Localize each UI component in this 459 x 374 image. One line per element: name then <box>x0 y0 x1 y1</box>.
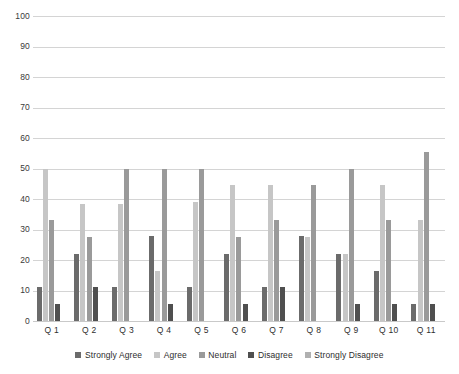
x-tick-label: Q 11 <box>408 325 445 339</box>
bar <box>49 220 54 321</box>
bar-group <box>70 16 107 321</box>
x-tick-label: Q 10 <box>370 325 407 339</box>
x-tick-label: Q 8 <box>295 325 332 339</box>
bar <box>168 304 173 321</box>
bar <box>112 287 117 321</box>
bar <box>93 287 98 321</box>
bar-group <box>183 16 220 321</box>
legend-swatch-icon <box>75 352 81 358</box>
bar <box>349 169 354 322</box>
bar <box>311 185 316 321</box>
bar-group <box>33 16 70 321</box>
bar <box>87 237 92 321</box>
bar <box>430 304 435 321</box>
bar <box>274 220 279 321</box>
y-tick-label-50: 50 <box>0 164 30 173</box>
legend-item[interactable]: Strongly Agree <box>75 350 142 360</box>
legend-item[interactable]: Agree <box>154 350 187 360</box>
bar <box>355 304 360 321</box>
legend-item[interactable]: Strongly Disagree <box>305 350 384 360</box>
x-tick-label: Q 6 <box>220 325 257 339</box>
bar-group <box>145 16 182 321</box>
bar <box>187 287 192 321</box>
bar <box>74 254 79 321</box>
y-tick-label-20: 20 <box>0 256 30 265</box>
x-tick-label: Q 2 <box>70 325 107 339</box>
y-tick-label-90: 90 <box>0 42 30 51</box>
bar <box>155 271 160 321</box>
bar <box>299 236 304 321</box>
bar <box>55 304 60 321</box>
bar <box>262 287 267 321</box>
bar <box>243 304 248 321</box>
bar <box>268 185 273 321</box>
bar <box>374 271 379 321</box>
bar <box>380 185 385 321</box>
bar-chart: 1009080706050403020100 Q 1Q 2Q 3Q 4Q 5Q … <box>0 0 459 374</box>
bar <box>193 202 198 321</box>
bar <box>230 185 235 321</box>
legend-label: Neutral <box>208 350 236 360</box>
bar <box>386 220 391 321</box>
bar-group <box>333 16 370 321</box>
bar <box>149 236 154 321</box>
legend-label: Agree <box>164 350 187 360</box>
y-tick-label-10: 10 <box>0 286 30 295</box>
bar <box>162 169 167 322</box>
gridline-0 <box>33 321 445 322</box>
legend-swatch-icon <box>154 352 160 358</box>
legend-item[interactable]: Disagree <box>248 350 292 360</box>
legend-swatch-icon <box>199 352 205 358</box>
x-tick-label: Q 5 <box>183 325 220 339</box>
bar-group <box>220 16 257 321</box>
x-axis-tick-labels: Q 1Q 2Q 3Q 4Q 5Q 6Q 7Q 8Q 9Q 10Q 11 <box>33 325 445 339</box>
bar <box>336 254 341 321</box>
legend-swatch-icon <box>248 352 254 358</box>
bar-group <box>295 16 332 321</box>
legend-item[interactable]: Neutral <box>199 350 237 360</box>
x-tick-label: Q 7 <box>258 325 295 339</box>
bar-group <box>408 16 445 321</box>
chart-legend: Strongly AgreeAgreeNeutralDisagreeStrong… <box>0 350 459 360</box>
bar-group <box>370 16 407 321</box>
bar <box>80 204 85 321</box>
y-tick-label-30: 30 <box>0 225 30 234</box>
y-tick-label-60: 60 <box>0 134 30 143</box>
x-tick-label: Q 9 <box>333 325 370 339</box>
bar <box>411 304 416 321</box>
bar <box>418 220 423 321</box>
x-tick-label: Q 3 <box>108 325 145 339</box>
bar-group <box>258 16 295 321</box>
x-tick-label: Q 4 <box>145 325 182 339</box>
y-axis-tick-labels: 1009080706050403020100 <box>0 16 30 321</box>
bar <box>236 237 241 321</box>
bar <box>305 237 310 321</box>
bar <box>424 152 429 321</box>
bar-group <box>108 16 145 321</box>
bar-groups <box>33 16 445 321</box>
y-tick-label-40: 40 <box>0 195 30 204</box>
bar <box>118 204 123 321</box>
y-tick-label-80: 80 <box>0 73 30 82</box>
bar <box>43 169 48 322</box>
bar <box>124 169 129 322</box>
bar <box>37 287 42 321</box>
y-tick-label-100: 100 <box>0 12 30 21</box>
bar <box>199 169 204 322</box>
legend-label: Strongly Disagree <box>314 350 383 360</box>
bar <box>224 254 229 321</box>
bar <box>280 287 285 321</box>
y-tick-label-0: 0 <box>0 317 30 326</box>
legend-label: Disagree <box>258 350 293 360</box>
bar <box>343 254 348 321</box>
legend-swatch-icon <box>305 352 311 358</box>
x-tick-label: Q 1 <box>33 325 70 339</box>
bar <box>392 304 397 321</box>
legend-label: Strongly Agree <box>85 350 142 360</box>
y-tick-label-70: 70 <box>0 103 30 112</box>
